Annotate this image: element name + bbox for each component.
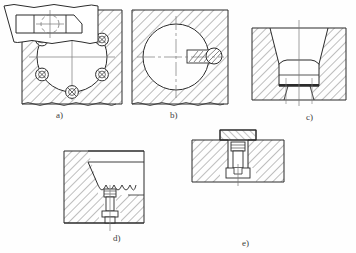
figure-c [246, 14, 352, 110]
caption-figure-b: b) [170, 110, 178, 120]
caption-figure-d: d) [113, 233, 121, 243]
figure-d [58, 139, 154, 231]
bolt [96, 68, 109, 81]
round-pin [206, 48, 222, 64]
figure-b [128, 6, 236, 110]
screw-head [231, 142, 245, 151]
drawing-sheet: a) b) c) d) e) [0, 0, 356, 253]
caption-figure-a: a) [56, 110, 63, 120]
figure-e-section [190, 128, 286, 186]
caption-figure-e: e) [242, 238, 249, 248]
caption-figure-c: c) [306, 112, 313, 122]
figure-e-plan [0, 0, 104, 48]
bolt [66, 86, 79, 99]
bolt [36, 68, 49, 81]
